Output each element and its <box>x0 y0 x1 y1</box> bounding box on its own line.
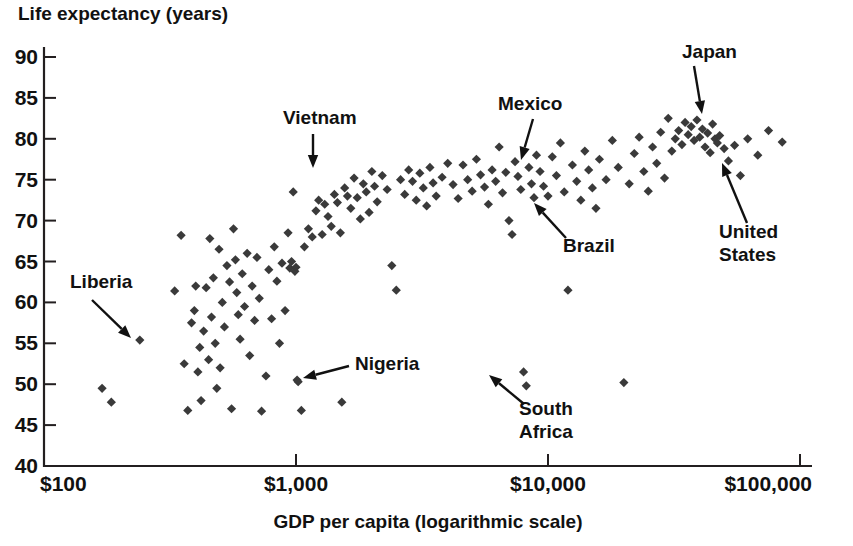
annotation-label: United <box>719 221 778 242</box>
y-tick-label: 85 <box>15 86 39 109</box>
y-tick-label: 60 <box>15 290 38 313</box>
annotation-label: States <box>719 244 776 265</box>
y-tick-label: 80 <box>15 127 38 150</box>
x-tick-label: $10,000 <box>510 472 586 495</box>
x-tick-label: $100,000 <box>724 472 812 495</box>
x-axis-title: GDP per capita (logarithmic scale) <box>273 511 582 532</box>
annotation-label: South <box>519 398 573 419</box>
annotation-label: Vietnam <box>283 107 357 128</box>
y-tick-label: 55 <box>15 331 39 354</box>
y-tick-label: 70 <box>15 209 38 232</box>
y-tick-label: 90 <box>15 45 38 68</box>
annotation-label: Nigeria <box>355 353 420 374</box>
y-tick-label: 50 <box>15 372 38 395</box>
x-tick-label: $100 <box>40 472 87 495</box>
annotation-label: Japan <box>682 41 737 62</box>
y-tick-label: 40 <box>15 454 38 477</box>
chart-canvas: Life expectancy (years) 9085807570656055… <box>0 0 853 546</box>
x-tick-label: $1,000 <box>264 472 328 495</box>
annotation-label: Brazil <box>563 235 615 256</box>
y-tick-label: 75 <box>15 168 39 191</box>
annotation-label: Liberia <box>70 271 133 292</box>
y-tick-label: 65 <box>15 250 39 273</box>
scatter-plot-figure: Life expectancy (years) 9085807570656055… <box>0 0 853 546</box>
y-tick-label: 45 <box>15 413 39 436</box>
y-axis-title: Life expectancy (years) <box>18 3 228 24</box>
annotation-label: Mexico <box>498 93 562 114</box>
annotation-label: Africa <box>519 421 573 442</box>
